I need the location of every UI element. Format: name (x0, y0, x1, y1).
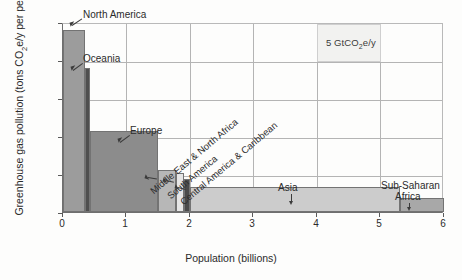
arrowhead-asia (289, 201, 293, 205)
area-key-pre: 5 GtCO (326, 37, 359, 48)
x-tick-mark-5 (379, 213, 380, 217)
callout-sub-saharan-africa-line1: Sub-Saharan (381, 180, 440, 191)
chart-figure: Greenhouse gas pollution (tons CO2e/y pe… (0, 0, 462, 280)
x-tick-mark-2 (189, 213, 190, 217)
x-axis-title: Population (billions) (0, 252, 462, 264)
bar-north-america (63, 30, 85, 212)
x-tick-mark-6 (443, 213, 444, 217)
callout-asia: Asia (278, 182, 297, 193)
y-axis-title-sub: 2 (20, 47, 29, 51)
x-tick-label-2: 2 (179, 218, 199, 229)
area-key-post: e/y (363, 37, 376, 48)
x-tick-mark-3 (252, 213, 253, 217)
x-tick-label-5: 5 (369, 218, 389, 229)
bar-europe (90, 131, 159, 212)
arrowhead-sub-saharan-africa (407, 207, 411, 211)
x-tick-label-0: 0 (52, 218, 72, 229)
callout-north-america: North America (83, 9, 146, 20)
x-tick-label-1: 1 (115, 218, 135, 229)
x-tick-mark-0 (62, 213, 63, 217)
callout-sub-saharan-africa-line2: Africa (395, 191, 421, 202)
area-key-label: 5 GtCO2e/y (326, 37, 376, 50)
grid-line-x-3 (253, 24, 254, 212)
x-tick-mark-1 (125, 213, 126, 217)
callout-oceania: Oceania (83, 53, 120, 64)
x-tick-label-6: 6 (433, 218, 453, 229)
x-tick-mark-4 (316, 213, 317, 217)
y-axis-title: Greenhouse gas pollution (tons CO2e/y pe… (13, 16, 28, 216)
x-tick-label-3: 3 (242, 218, 262, 229)
callout-europe: Europe (130, 125, 162, 136)
x-tick-label-4: 4 (306, 218, 326, 229)
y-axis-title-post: e/y per person) (13, 0, 25, 47)
y-axis-title-pre: Greenhouse gas pollution (tons CO (13, 51, 25, 216)
grid-line-y-15 (63, 100, 442, 101)
